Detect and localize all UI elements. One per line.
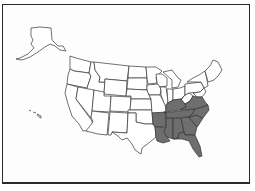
state-kansas bbox=[130, 99, 152, 110]
state-florida bbox=[174, 132, 202, 157]
state-wyoming bbox=[104, 79, 127, 96]
state-montana bbox=[94, 62, 129, 82]
state-north-dakota bbox=[128, 66, 147, 78]
state-alaska bbox=[16, 27, 66, 60]
state-arkansas bbox=[152, 112, 166, 127]
state-hawaii bbox=[29, 110, 41, 118]
state-south-dakota bbox=[127, 78, 147, 90]
state-colorado bbox=[110, 96, 131, 112]
state-new-mexico bbox=[108, 112, 128, 135]
state-new-england bbox=[205, 60, 222, 82]
us-map bbox=[0, 0, 255, 191]
